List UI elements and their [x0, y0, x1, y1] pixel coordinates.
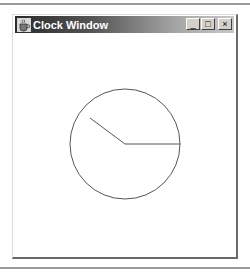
- clock-face: [0, 0, 250, 272]
- bottom-divider: [0, 267, 250, 269]
- hour-hand: [90, 118, 125, 144]
